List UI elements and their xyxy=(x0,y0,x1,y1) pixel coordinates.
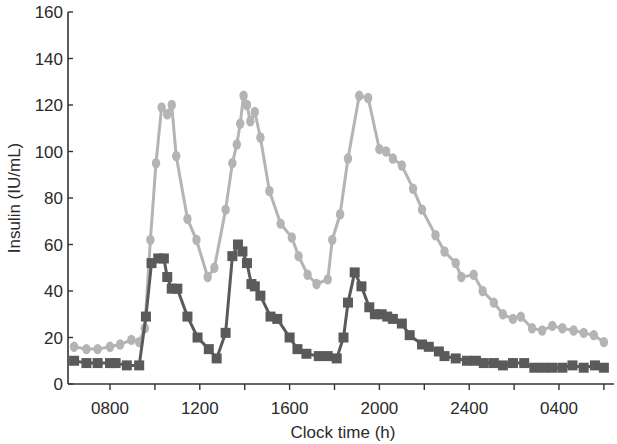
data-point-circle xyxy=(106,342,114,352)
data-point-square xyxy=(424,342,434,352)
y-axis-tick-labels: 020406080100120140160 xyxy=(35,3,63,394)
y-tick-label: 120 xyxy=(35,96,63,115)
data-point-square xyxy=(134,360,144,370)
x-tick-label: 2400 xyxy=(450,399,488,418)
data-point-circle xyxy=(93,344,101,354)
y-tick-label: 40 xyxy=(44,282,63,301)
data-point-square xyxy=(479,358,489,368)
data-point-square xyxy=(314,351,324,361)
data-point-circle xyxy=(265,186,273,196)
data-point-square xyxy=(590,360,600,370)
data-point-square xyxy=(350,267,360,277)
data-point-square xyxy=(323,351,333,361)
data-point-square xyxy=(538,363,548,373)
data-point-square xyxy=(356,281,366,291)
data-point-square xyxy=(227,251,237,261)
data-point-square xyxy=(111,358,121,368)
data-point-circle xyxy=(600,337,608,347)
data-point-circle xyxy=(452,258,460,268)
data-point-circle xyxy=(288,232,296,242)
data-point-square xyxy=(255,291,265,301)
data-point-square xyxy=(599,363,609,373)
data-point-square xyxy=(162,272,172,282)
data-point-circle xyxy=(336,209,344,219)
data-point-circle xyxy=(364,93,372,103)
data-point-circle xyxy=(431,230,439,240)
data-point-circle xyxy=(409,184,417,194)
x-tick-label: 2000 xyxy=(360,399,398,418)
data-point-circle xyxy=(478,286,486,296)
x-tick-label: 0400 xyxy=(540,399,578,418)
data-point-circle xyxy=(183,214,191,224)
y-tick-label: 0 xyxy=(54,375,63,394)
data-point-square xyxy=(250,281,260,291)
data-point-square xyxy=(557,363,567,373)
data-point-square xyxy=(343,298,353,308)
data-point-square xyxy=(529,363,539,373)
data-point-square xyxy=(272,314,282,324)
series-squares xyxy=(69,240,609,373)
data-point-circle xyxy=(579,328,587,338)
data-point-circle xyxy=(312,279,320,289)
insulin-line-chart: 020406080100120140160 080012001600200024… xyxy=(0,0,617,444)
data-point-square xyxy=(204,344,214,354)
data-point-circle xyxy=(490,297,498,307)
data-point-circle xyxy=(236,118,244,128)
data-point-circle xyxy=(590,330,598,340)
data-point-circle xyxy=(398,160,406,170)
data-point-circle xyxy=(548,321,556,331)
data-point-square xyxy=(388,314,398,324)
data-point-square xyxy=(292,344,302,354)
plot-area xyxy=(69,91,609,373)
data-point-circle xyxy=(146,235,154,245)
data-point-square xyxy=(451,353,461,363)
data-point-circle xyxy=(499,309,507,319)
data-point-circle xyxy=(382,146,390,156)
data-point-square xyxy=(579,363,589,373)
data-point-circle xyxy=(457,272,465,282)
data-point-circle xyxy=(528,323,536,333)
data-point-square xyxy=(301,349,311,359)
y-tick-label: 20 xyxy=(44,329,63,348)
data-point-circle xyxy=(168,100,176,110)
data-point-circle xyxy=(418,204,426,214)
y-tick-label: 100 xyxy=(35,143,63,162)
y-tick-label: 60 xyxy=(44,236,63,255)
data-point-circle xyxy=(328,235,336,245)
data-point-square xyxy=(547,363,557,373)
data-point-circle xyxy=(294,251,302,261)
series-line xyxy=(74,96,604,349)
data-point-circle xyxy=(469,270,477,280)
data-point-square xyxy=(81,358,91,368)
data-point-square xyxy=(172,284,182,294)
data-point-circle xyxy=(324,274,332,284)
data-point-square xyxy=(462,356,472,366)
data-point-square xyxy=(182,312,192,322)
data-point-circle xyxy=(70,342,78,352)
data-point-square xyxy=(242,258,252,268)
data-point-square xyxy=(122,360,132,370)
data-point-square xyxy=(285,333,295,343)
data-point-circle xyxy=(389,153,397,163)
data-point-circle xyxy=(210,263,218,273)
data-point-circle xyxy=(239,91,247,101)
data-point-circle xyxy=(203,272,211,282)
data-point-square xyxy=(489,358,499,368)
data-point-circle xyxy=(256,132,264,142)
data-point-circle xyxy=(228,158,236,168)
data-point-circle xyxy=(82,344,90,354)
data-point-square xyxy=(237,246,247,256)
data-point-circle xyxy=(344,153,352,163)
data-point-circle xyxy=(192,235,200,245)
data-point-circle xyxy=(276,218,284,228)
data-point-square xyxy=(440,351,450,361)
data-point-square xyxy=(508,358,518,368)
data-point-square xyxy=(397,319,407,329)
data-point-circle xyxy=(172,151,180,161)
data-point-square xyxy=(519,358,529,368)
data-point-circle xyxy=(221,204,229,214)
data-point-square xyxy=(69,356,79,366)
data-point-circle xyxy=(233,139,241,149)
data-point-circle xyxy=(509,314,517,324)
y-tick-label: 160 xyxy=(35,3,63,22)
